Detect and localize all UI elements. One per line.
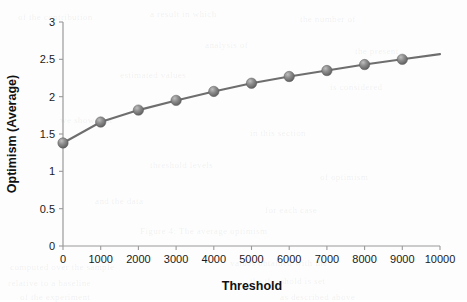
x-axis-title: Threshold bbox=[222, 279, 282, 293]
x-axis-tick-label: 4000 bbox=[202, 253, 226, 265]
x-axis-tick-labels: 0100020003000400050006000700080009000100… bbox=[60, 253, 455, 265]
data-point-marker bbox=[133, 105, 143, 115]
y-axis-tick-labels: 00.511.522.53 bbox=[40, 16, 55, 252]
x-axis-ticks bbox=[63, 246, 440, 250]
x-axis-tick-label: 6000 bbox=[277, 253, 301, 265]
data-point-marker bbox=[359, 59, 369, 69]
data-series-layer bbox=[58, 54, 440, 148]
data-point-marker bbox=[58, 138, 68, 148]
x-axis-tick-label: 7000 bbox=[315, 253, 339, 265]
data-point-marker bbox=[171, 95, 181, 105]
data-point-marker bbox=[322, 65, 332, 75]
data-point-marker bbox=[246, 78, 256, 88]
x-axis-tick-label: 1000 bbox=[88, 253, 112, 265]
chart-axes bbox=[63, 22, 440, 246]
x-axis-tick-label: 3000 bbox=[164, 253, 188, 265]
data-point-marker bbox=[209, 86, 219, 96]
data-point-marker bbox=[284, 71, 294, 81]
y-axis-tick-label: 3 bbox=[49, 16, 55, 28]
x-axis-tick-label: 9000 bbox=[390, 253, 414, 265]
y-axis-tick-label: 0.5 bbox=[40, 203, 55, 215]
y-axis-title: Optimism (Average) bbox=[5, 75, 19, 193]
x-axis-tick-label: 8000 bbox=[352, 253, 376, 265]
series-markers bbox=[58, 54, 408, 148]
y-axis-tick-label: 1.5 bbox=[40, 128, 55, 140]
series-line bbox=[63, 54, 440, 143]
y-axis-tick-label: 1 bbox=[49, 165, 55, 177]
data-point-marker bbox=[397, 54, 407, 64]
data-point-marker bbox=[96, 117, 106, 127]
y-axis-tick-label: 0 bbox=[49, 240, 55, 252]
x-axis-tick-label: 5000 bbox=[239, 253, 263, 265]
x-axis-tick-label: 0 bbox=[60, 253, 66, 265]
y-axis-tick-label: 2.5 bbox=[40, 53, 55, 65]
y-axis-tick-label: 2 bbox=[49, 91, 55, 103]
x-axis-tick-label: 2000 bbox=[126, 253, 150, 265]
x-axis-tick-label: 10000 bbox=[425, 253, 456, 265]
